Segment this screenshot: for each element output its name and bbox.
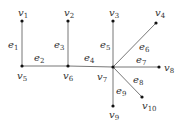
vertex-v5 <box>20 64 23 67</box>
vertex-label-v5: v5 <box>17 70 27 83</box>
vertex-v9 <box>111 104 114 107</box>
vertex-label-v3: v3 <box>109 7 119 20</box>
edge-label-e3: e3 <box>54 39 64 52</box>
vertex-label-v6: v6 <box>63 70 74 83</box>
vertex-v8 <box>157 65 160 68</box>
vertex-label-v2: v2 <box>64 7 74 20</box>
edge-label-e1: e1 <box>8 39 18 52</box>
vertex-label-v10: v10 <box>142 100 157 113</box>
edge-label-e7: e7 <box>136 54 146 67</box>
graph-diagram: e1e2e3e4e5e6e7e8e9v1v2v3v4v5v6v7v8v9v10 <box>0 0 183 125</box>
vertex-label-v4: v4 <box>155 7 166 20</box>
edge-label-e4: e4 <box>84 52 95 65</box>
vertex-label-v1: v1 <box>18 7 28 20</box>
vertex-label-v8: v8 <box>164 62 174 75</box>
edge-label-e9: e9 <box>116 85 126 98</box>
vertex-label-v7: v7 <box>97 71 107 84</box>
vertex-v4 <box>154 21 157 24</box>
edge-label-e8: e8 <box>133 74 143 87</box>
edge-e4 <box>68 66 113 67</box>
edge-label-e2: e2 <box>34 52 44 65</box>
vertex-v7 <box>111 65 114 68</box>
vertex-label-v9: v9 <box>109 109 119 122</box>
edge-label-e5: e5 <box>100 39 110 52</box>
edge-e6 <box>113 23 156 67</box>
edge-label-e6: e6 <box>139 41 150 54</box>
vertex-v6 <box>66 64 69 67</box>
vertex-v10 <box>140 95 143 98</box>
labels: e1e2e3e4e5e6e7e8e9v1v2v3v4v5v6v7v8v9v10 <box>8 7 174 122</box>
